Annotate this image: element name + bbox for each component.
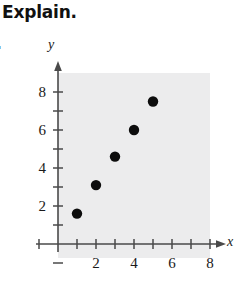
x-tick-label: 4 (127, 256, 141, 271)
x-axis-arrowhead (216, 240, 226, 248)
data-point (129, 125, 139, 135)
figure-page: Explain. . y x 24682468 (0, 0, 241, 284)
prompt-text: Explain. (2, 2, 77, 22)
y-axis-arrowhead (54, 61, 62, 71)
plot-axes (0, 30, 241, 284)
data-point (72, 208, 82, 218)
scatter-plot-figure: y x 24682468 (0, 30, 241, 284)
data-points (72, 96, 158, 219)
tick-marks (39, 92, 210, 263)
y-tick-label: 4 (32, 161, 46, 176)
data-point (148, 96, 158, 106)
data-point (91, 180, 101, 190)
data-point (110, 151, 120, 161)
y-tick-label: 2 (32, 199, 46, 214)
x-tick-label: 2 (89, 256, 103, 271)
x-tick-label: 8 (203, 256, 217, 271)
x-tick-label: 6 (165, 256, 179, 271)
y-tick-label: 8 (32, 85, 46, 100)
y-tick-label: 6 (32, 123, 46, 138)
